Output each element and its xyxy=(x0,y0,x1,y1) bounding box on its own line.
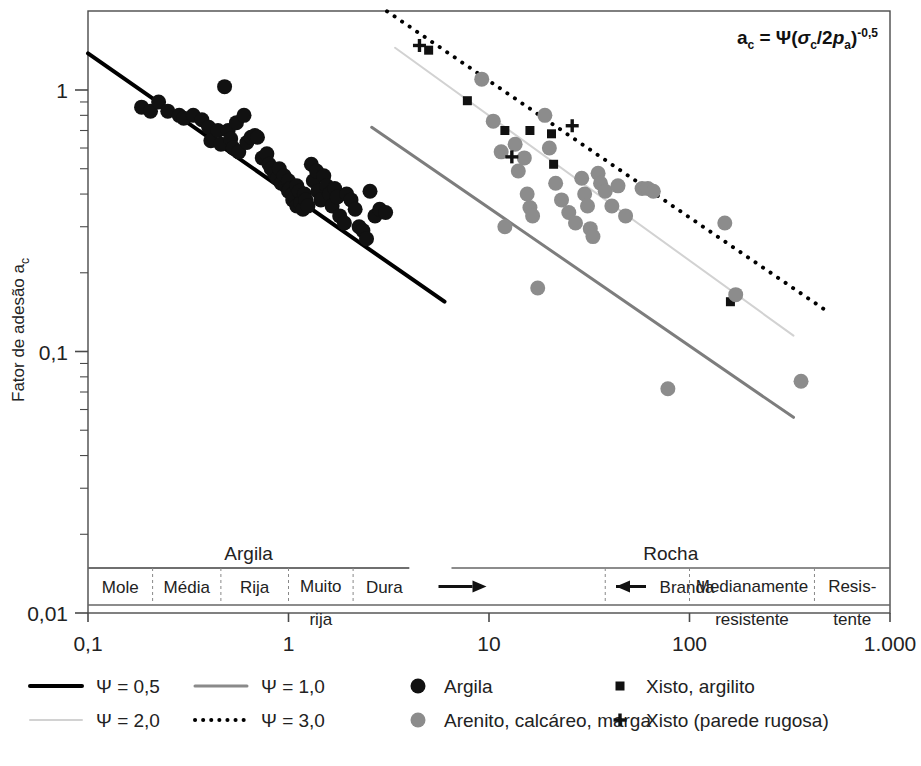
band-label-3-line2: rija xyxy=(309,610,332,629)
legend-line-label-1: Ψ = 1,0 xyxy=(261,676,325,697)
x-tick-label-1: 1 xyxy=(283,632,295,655)
x-tick-label-0: 0,1 xyxy=(73,632,102,655)
x-tick-label-3: 100 xyxy=(672,632,707,655)
formula-annotation: ac = Ψ(σc/2pa)-0,5 xyxy=(737,26,878,52)
legend-marker-item-1[interactable]: Xisto, argilito xyxy=(616,676,755,697)
legend-marker-label-1: Xisto, argilito xyxy=(646,676,755,697)
x-tick-label-4: 1.000 xyxy=(864,632,917,655)
legend-marker-item-0[interactable]: Argila xyxy=(411,676,494,697)
y-tick-label-0: 1 xyxy=(56,79,68,102)
band-label-7-line2: resistente xyxy=(715,610,789,629)
legend-line-item-2[interactable]: Ψ = 2,0 xyxy=(30,710,160,731)
legend-line-label-0: Ψ = 0,5 xyxy=(96,676,160,697)
y-tick-label-2: 0,01 xyxy=(27,602,68,625)
legend-marker-swatch-2 xyxy=(411,713,426,728)
trend-line-0 xyxy=(88,53,445,301)
trend-lines xyxy=(88,11,824,417)
data-points xyxy=(134,39,808,396)
legend-marker-label-0: Argila xyxy=(444,676,493,697)
band-label-1: Média xyxy=(164,578,211,597)
y-tick-label-1: 0,1 xyxy=(39,341,68,364)
legend: Ψ = 0,5Ψ = 1,0Ψ = 2,0Ψ = 3,0ArgilaXisto,… xyxy=(30,676,829,731)
series-0 xyxy=(134,79,393,246)
legend-marker-swatch-0 xyxy=(411,679,426,694)
band-label-3: Muito xyxy=(300,577,342,596)
legend-line-item-0[interactable]: Ψ = 0,5 xyxy=(30,676,160,697)
band-label-4: Dura xyxy=(366,578,403,597)
band-label-2: Rija xyxy=(240,578,270,597)
plot-frame xyxy=(88,11,890,613)
y-axis-title: Fator de adesão ac xyxy=(9,258,32,402)
band-label-7: Medianamente xyxy=(696,577,808,596)
legend-line-item-1[interactable]: Ψ = 1,0 xyxy=(195,676,325,697)
legend-line-item-3[interactable]: Ψ = 3,0 xyxy=(195,710,325,731)
adhesion-factor-chart: 10,10,01Fator de adesão ac0,11101001.000… xyxy=(0,0,921,766)
band-label-8: Resis- xyxy=(828,577,876,596)
legend-marker-item-3[interactable]: Xisto (parede rugosa) xyxy=(614,710,829,731)
band-label-0: Mole xyxy=(102,578,139,597)
band-group-label-1: Rocha xyxy=(643,543,698,564)
legend-marker-label-3: Xisto (parede rugosa) xyxy=(646,710,829,731)
x-tick-label-2: 10 xyxy=(477,632,500,655)
band-label-8-line2: tente xyxy=(833,610,871,629)
legend-line-label-2: Ψ = 2,0 xyxy=(96,710,160,731)
band-group-label-0: Argila xyxy=(224,543,273,564)
legend-marker-swatch-1 xyxy=(616,682,625,691)
legend-line-label-3: Ψ = 3,0 xyxy=(261,710,325,731)
y-axis-ticks xyxy=(75,90,88,613)
trend-line-3 xyxy=(387,11,824,309)
